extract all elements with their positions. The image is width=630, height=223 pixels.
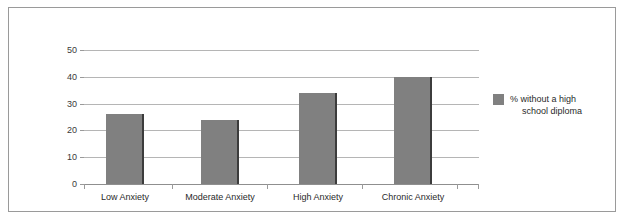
- bar: [299, 93, 337, 184]
- x-axis-separator-tick: [362, 184, 363, 189]
- y-axis-tick-label: 10: [67, 153, 77, 162]
- x-axis-category-label: Chronic Anxiety: [382, 193, 445, 202]
- y-axis-tick-label: 20: [67, 126, 77, 135]
- y-axis-tick-mark: [80, 104, 84, 105]
- x-axis-separator-tick: [172, 184, 173, 189]
- chart-frame: 01020304050 Low AnxietyModerate AnxietyH…: [8, 7, 616, 212]
- y-axis-tick-mark: [80, 157, 84, 158]
- legend-label-line2: school diploma: [510, 105, 582, 117]
- y-axis-tick-mark: [80, 130, 84, 131]
- x-axis-separator-tick: [84, 184, 85, 189]
- y-axis-tick-label: 50: [67, 46, 77, 55]
- plot-area: 01020304050 Low AnxietyModerate AnxietyH…: [84, 50, 479, 184]
- legend-label-line1: % without a high: [510, 93, 582, 105]
- y-axis-tick-label: 40: [67, 72, 77, 81]
- bar-chart-figure: 01020304050 Low AnxietyModerate AnxietyH…: [0, 0, 630, 223]
- x-axis-category-label: Low Anxiety: [101, 193, 149, 202]
- gridline-50: [84, 50, 479, 51]
- bar: [106, 114, 144, 184]
- bar: [394, 77, 432, 184]
- x-axis-category-label: High Anxiety: [293, 193, 343, 202]
- y-axis-tick-mark: [80, 50, 84, 51]
- y-axis-tick-mark: [80, 77, 84, 78]
- legend-label: % without a high school diploma: [510, 93, 582, 117]
- y-axis-tick-label: 30: [67, 99, 77, 108]
- x-axis-separator-tick: [478, 184, 479, 189]
- legend-swatch-icon: [493, 94, 504, 105]
- chart-legend: % without a high school diploma: [493, 93, 582, 117]
- x-axis-line: [84, 184, 479, 185]
- x-axis-category-label: Moderate Anxiety: [185, 193, 255, 202]
- y-axis-tick-label: 0: [72, 180, 77, 189]
- bar: [201, 120, 239, 184]
- x-axis-separator-tick: [457, 184, 458, 189]
- x-axis-separator-tick: [267, 184, 268, 189]
